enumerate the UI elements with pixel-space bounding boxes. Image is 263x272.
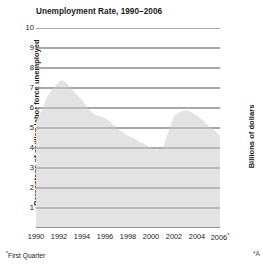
x-tick-label-1990: 1990 <box>28 233 44 240</box>
x-tick-label-marker: * <box>227 232 229 238</box>
area-series-unemployment-rate <box>36 80 220 228</box>
x-tick-label-1998: 1998 <box>120 233 136 240</box>
x-tick-label-1992: 1992 <box>51 233 67 240</box>
x-tick-label-2000: 2000 <box>143 233 159 240</box>
y-tick-label-8: 8 <box>12 64 34 72</box>
y-tick-label-4: 4 <box>12 144 34 152</box>
y-tick-label-1: 1 <box>12 204 34 212</box>
x-tick-label-2006: 2006* <box>211 233 230 242</box>
x-tick-label-1996: 1996 <box>97 233 113 240</box>
area-chart-svg <box>36 28 220 228</box>
x-axis-tick-labels: 199019921994199619982000200220042006* <box>36 233 226 245</box>
y-tick-label-3: 3 <box>12 164 34 172</box>
neighbor-footnote-fragment: *A <box>253 250 260 257</box>
y-tick-label-10: 10 <box>12 24 34 32</box>
y-tick-label-2: 2 <box>12 184 34 192</box>
plot-area <box>36 28 220 228</box>
footnote-text: First Quarter <box>8 252 45 259</box>
x-tick-label-1994: 1994 <box>74 233 90 240</box>
chart-figure: Unemployment Rate, 1990–2006 Percentage … <box>0 0 263 272</box>
y-tick-label-5: 5 <box>12 124 34 132</box>
x-tick-label-2002: 2002 <box>166 233 182 240</box>
chart-footnote: *First Quarter <box>6 250 45 259</box>
y-tick-label-6: 6 <box>12 104 34 112</box>
y-tick-label-7: 7 <box>12 84 34 92</box>
y-axis-tick-labels: 12345678910 <box>8 28 34 228</box>
neighbor-y-axis-title: Billions of dollars <box>247 82 256 192</box>
y-tick-label-9: 9 <box>12 44 34 52</box>
chart-title: Unemployment Rate, 1990–2006 <box>36 7 162 16</box>
x-tick-label-2004: 2004 <box>189 233 205 240</box>
